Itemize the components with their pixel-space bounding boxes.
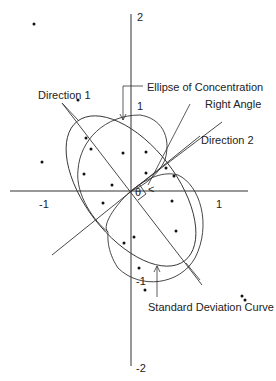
sd-curve-leader-2 (186, 263, 200, 280)
x-tick-1: 1 (216, 198, 222, 210)
ellipse-label: Ellipse of Concentration (147, 81, 263, 93)
data-point (138, 267, 141, 270)
data-point (175, 230, 178, 233)
data-points (33, 23, 247, 302)
data-point (90, 148, 93, 151)
data-point (133, 236, 136, 239)
data-point (111, 184, 114, 187)
right-angle-leader (148, 104, 190, 185)
data-point (123, 242, 126, 245)
data-point (33, 23, 36, 26)
data-point (102, 202, 105, 205)
data-point (173, 175, 176, 178)
data-point (145, 151, 148, 154)
data-point (85, 137, 88, 140)
y-tick-neg2: -2 (136, 362, 146, 374)
direction-1-line (62, 103, 202, 285)
data-point (241, 295, 244, 298)
data-point (171, 200, 174, 203)
direction2-label: Direction 2 (201, 134, 254, 146)
y-tick-neg1: -1 (136, 275, 146, 287)
data-point (145, 172, 148, 175)
data-point (122, 152, 125, 155)
y-tick-1: 1 (137, 100, 143, 112)
data-point (144, 289, 147, 292)
direction-2-extension (131, 122, 222, 191)
data-point (83, 173, 86, 176)
theta-symbol: θ (135, 186, 141, 198)
right-angle-label: Right Angle (205, 98, 261, 110)
data-point (41, 161, 44, 164)
scatter-diagram: θ < 2 1 -1 -2 -1 1 Ellipse of Concentrat… (0, 0, 276, 381)
direction1-leader (62, 103, 78, 120)
y-tick-2: 2 (137, 11, 143, 23)
sd-curve-label: Standard Deviation Curve (148, 301, 274, 313)
x-tick-neg1: -1 (39, 198, 49, 210)
theta-arrow: < (148, 183, 154, 195)
direction1-label: Direction 1 (38, 89, 91, 101)
data-point (165, 167, 168, 170)
